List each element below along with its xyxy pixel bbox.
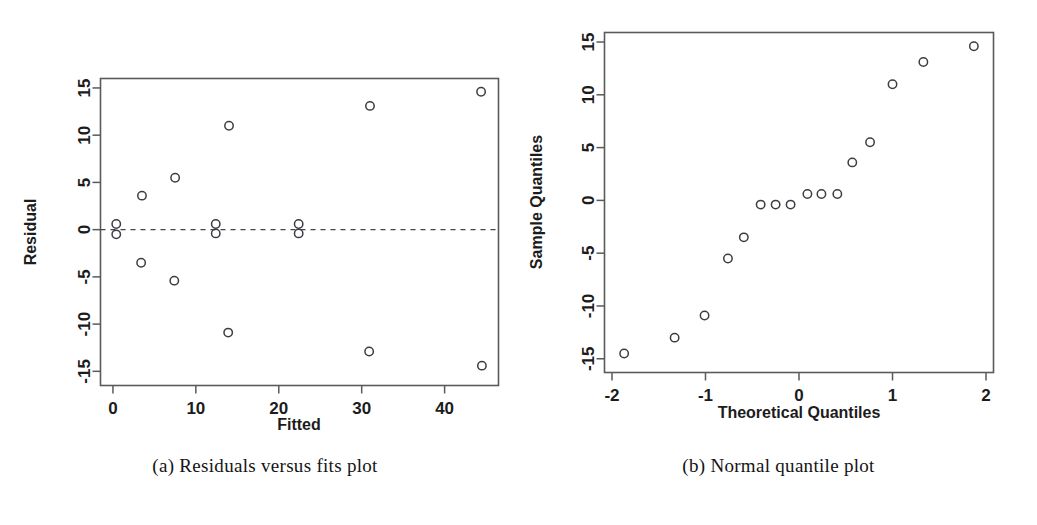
panel-normal-quantile: -15-10-5051015 -2-1012 Theoretical Quant… (520, 0, 1037, 445)
data-point (138, 191, 146, 199)
y-tick-label: 5 (579, 143, 598, 152)
data-point (170, 276, 178, 284)
data-point (294, 220, 302, 228)
data-point (294, 229, 302, 237)
data-point (670, 333, 678, 341)
y-tick-label: 10 (75, 126, 94, 145)
data-point (112, 220, 120, 228)
data-point (366, 102, 374, 110)
data-point (620, 349, 628, 357)
data-point (817, 190, 825, 198)
data-point (833, 190, 841, 198)
figure-root: -15-10-5051015 010203040 Fitted Residual… (0, 0, 1037, 525)
data-point (724, 254, 732, 262)
data-point (848, 158, 856, 166)
data-point (866, 138, 874, 146)
x-tick-label: 1 (888, 386, 897, 405)
data-point (171, 173, 179, 181)
y-tick-label: -5 (579, 246, 598, 261)
y-axis-title-b: Sample Quantiles (528, 135, 545, 269)
x-tick-label: 10 (186, 399, 205, 418)
y-tick-label: -10 (75, 312, 94, 337)
x-axis-tick-labels-a: 010203040 (108, 399, 454, 418)
panel-residuals-vs-fits: -15-10-5051015 010203040 Fitted Residual (0, 0, 530, 445)
x-tick-label: 40 (435, 399, 454, 418)
caption-panel-a: (a) Residuals versus fits plot (0, 455, 530, 477)
plot-frame-a (101, 79, 499, 386)
x-tick-label: 0 (794, 386, 803, 405)
data-point (477, 88, 485, 96)
x-tick-label: 20 (269, 399, 288, 418)
data-point (970, 42, 978, 50)
data-point (212, 229, 220, 237)
data-point (112, 230, 120, 238)
data-point (771, 200, 779, 208)
data-points-a (112, 88, 486, 370)
data-point (919, 58, 927, 66)
data-point (225, 122, 233, 130)
data-point (756, 200, 764, 208)
data-point (700, 311, 708, 319)
data-point (137, 259, 145, 267)
x-tick-label: -2 (604, 386, 619, 405)
residuals-vs-fits-chart: -15-10-5051015 010203040 Fitted Residual (0, 0, 530, 445)
y-axis-tick-labels-a: -15-10-5051015 (75, 78, 94, 383)
x-tick-label: 0 (108, 399, 117, 418)
data-point (365, 347, 373, 355)
data-point (888, 80, 896, 88)
plot-frame-b (605, 33, 994, 373)
x-tick-label: -1 (698, 386, 713, 405)
x-axis-tick-labels-b: -2-1012 (604, 386, 990, 405)
y-tick-label: -5 (75, 269, 94, 284)
y-tick-label: -15 (75, 359, 94, 384)
x-tick-label: 30 (352, 399, 371, 418)
caption-panel-b: (b) Normal quantile plot (520, 455, 1037, 477)
y-tick-label: 0 (579, 196, 598, 205)
x-axis-title-a: Fitted (277, 416, 321, 433)
y-axis-title-a: Residual (22, 199, 39, 266)
y-axis-tick-labels-b: -15-10-5051015 (579, 33, 598, 372)
data-point (478, 361, 486, 369)
y-tick-label: 15 (75, 78, 94, 97)
y-tick-label: 5 (75, 178, 94, 187)
data-point (803, 190, 811, 198)
data-point (786, 200, 794, 208)
axis-ticks-b (597, 42, 987, 380)
x-tick-label: 2 (981, 386, 990, 405)
y-tick-label: 0 (75, 225, 94, 234)
data-points-b (620, 42, 978, 358)
data-point (212, 220, 220, 228)
axis-ticks-a (93, 88, 445, 394)
data-point (224, 328, 232, 336)
normal-quantile-chart: -15-10-5051015 -2-1012 Theoretical Quant… (520, 0, 1037, 445)
y-tick-label: -10 (579, 294, 598, 319)
y-tick-label: 10 (579, 85, 598, 104)
x-axis-title-b: Theoretical Quantiles (718, 404, 881, 421)
data-point (740, 233, 748, 241)
y-tick-label: -15 (579, 346, 598, 371)
y-tick-label: 15 (579, 33, 598, 52)
